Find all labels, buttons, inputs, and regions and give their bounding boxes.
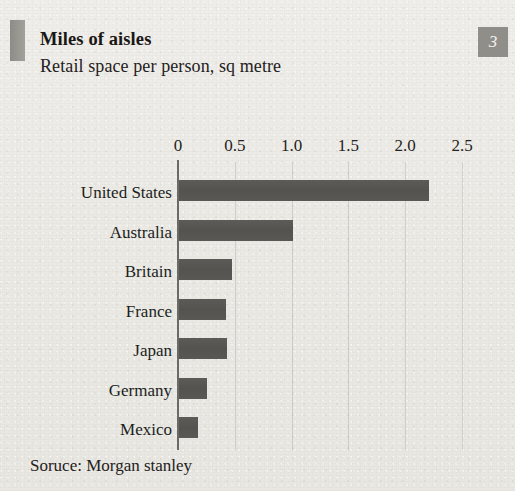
category-label-britain: Britain (125, 263, 172, 280)
bar-france (179, 299, 226, 320)
bar-japan (179, 338, 227, 359)
category-label-japan: Japan (133, 342, 172, 359)
bar-australia (179, 220, 293, 241)
category-label-mexico: Mexico (120, 421, 172, 438)
gridline-0.5 (235, 162, 236, 450)
category-label-united-states: United States (81, 184, 172, 201)
bar-united-states (179, 180, 429, 201)
x-tick-label-1.0: 1.0 (281, 136, 302, 156)
x-tick-label-0: 0 (174, 136, 183, 156)
category-label-france: France (126, 303, 172, 320)
bar-mexico (179, 417, 198, 438)
x-tick-label-2.5: 2.5 (451, 136, 472, 156)
gridline-2.0 (405, 162, 406, 450)
x-tick-label-1.5: 1.5 (338, 136, 359, 156)
chart-figure: 3 Miles of aisles Retail space per perso… (0, 0, 515, 491)
bar-britain (179, 259, 232, 280)
x-tick-label-0.5: 0.5 (224, 136, 245, 156)
plot-area: 00.51.01.52.02.5 United StatesAustraliaB… (0, 0, 515, 491)
x-tick-label-2.0: 2.0 (395, 136, 416, 156)
gridline-1.0 (292, 162, 293, 450)
gridline-1.5 (348, 162, 349, 450)
source-note: Soruce: Morgan stanley (30, 456, 192, 476)
gridline-2.5 (462, 162, 463, 450)
category-label-australia: Australia (110, 224, 172, 241)
bar-germany (179, 378, 207, 399)
category-label-germany: Germany (109, 382, 172, 399)
